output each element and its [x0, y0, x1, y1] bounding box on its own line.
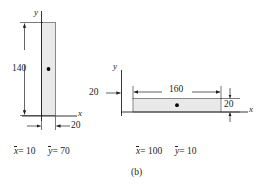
left-width-dimension-label: 20 — [71, 121, 81, 131]
figure-caption: (b) — [131, 168, 142, 178]
right-xbar-value: = 100 — [140, 146, 162, 156]
right-ybar-symbol: y — [175, 147, 179, 157]
left-ybar-symbol: y — [48, 147, 52, 157]
left-height-dimension-label: 140 — [12, 64, 26, 74]
left-x-axis-label: x — [78, 109, 82, 118]
right-y-axis-label: y — [113, 62, 117, 71]
right-length-dimension-label: 160 — [169, 85, 183, 95]
right-ybar-value: = 10 — [179, 146, 196, 156]
right-centroid-result: x= 100 y= 10 — [136, 147, 196, 157]
left-centroid-result: x= 10 y= 70 — [14, 147, 70, 157]
right-centroid-marker — [175, 103, 179, 107]
left-y-axis-label: y — [34, 8, 38, 17]
right-thickness-dimension-label: 20 — [224, 100, 234, 110]
left-ybar-value: = 70 — [52, 146, 69, 156]
figure-vector-layer — [0, 0, 272, 189]
right-xbar-symbol: x — [136, 147, 140, 157]
right-x-axis-label: x — [249, 105, 253, 114]
left-centroid-marker — [47, 67, 51, 71]
left-xbar-value: = 10 — [18, 146, 35, 156]
figure-canvas: y x 140 20 x= 10 y= 70 y x 20 160 20 x= … — [0, 0, 272, 189]
left-xbar-symbol: x — [14, 147, 18, 157]
right-offset-dimension-label: 20 — [89, 88, 99, 98]
